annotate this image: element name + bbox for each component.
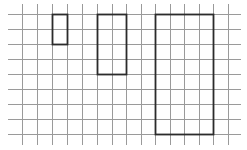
grid-diagram [0, 0, 247, 150]
